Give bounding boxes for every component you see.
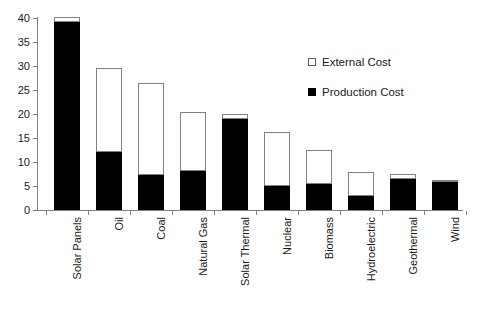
x-axis-label-text: Geothermal <box>408 217 419 321</box>
x-axis-label: Solar Thermal <box>240 97 251 217</box>
x-tick-mark <box>424 211 425 215</box>
x-tick-mark <box>298 211 299 215</box>
x-tick-mark <box>466 211 467 215</box>
black-square-icon <box>308 88 316 96</box>
x-tick-mark <box>382 211 383 215</box>
y-tick-mark <box>33 138 37 139</box>
y-tick-label: 30 <box>0 61 30 72</box>
x-tick-mark <box>46 211 47 215</box>
x-axis-label: Natural Gas <box>198 97 209 217</box>
x-axis-label-text: Hydroelectric <box>366 217 377 321</box>
x-axis-label: Solar Panels <box>72 97 83 217</box>
y-tick-mark <box>33 162 37 163</box>
y-tick-label: 0 <box>0 205 30 216</box>
y-tick-mark <box>33 42 37 43</box>
y-tick-mark <box>33 18 37 19</box>
y-tick-label: 40 <box>0 13 30 24</box>
x-axis-label-text: Solar Panels <box>72 217 83 321</box>
x-axis-label-text: Solar Thermal <box>240 217 251 321</box>
y-tick-mark <box>33 114 37 115</box>
y-tick-label: 25 <box>0 85 30 96</box>
x-axis-label-text: Coal <box>156 217 167 321</box>
y-tick-label: 15 <box>0 133 30 144</box>
x-tick-mark <box>130 211 131 215</box>
stacked-bar-chart: 4035302520151050 Solar PanelsOilCoalNatu… <box>0 0 485 321</box>
x-tick-mark <box>172 211 173 215</box>
x-axis-label: Coal <box>156 97 167 217</box>
x-axis-label: Wind <box>450 97 461 217</box>
x-tick-mark <box>256 211 257 215</box>
x-axis-label: Oil <box>114 97 125 217</box>
legend-label-production-cost: Production Cost <box>322 86 404 98</box>
x-axis-label-text: Wind <box>450 217 461 321</box>
white-square-icon <box>308 58 316 66</box>
y-tick-mark <box>33 186 37 187</box>
x-tick-mark <box>88 211 89 215</box>
x-axis-label-text: Oil <box>114 217 125 321</box>
y-tick-mark <box>33 66 37 67</box>
x-axis-label: Nuclear <box>282 97 293 217</box>
x-axis-label: Geothermal <box>408 97 419 217</box>
y-tick-label: 35 <box>0 37 30 48</box>
x-axis-label-text: Nuclear <box>282 217 293 321</box>
x-tick-mark <box>214 211 215 215</box>
x-axis-label-text: Biomass <box>324 217 335 321</box>
chart-legend: External Cost Production Cost <box>308 56 404 116</box>
legend-item-external-cost[interactable]: External Cost <box>308 56 404 68</box>
legend-item-production-cost[interactable]: Production Cost <box>308 86 404 98</box>
y-tick-label: 5 <box>0 181 30 192</box>
x-axis-label-text: Natural Gas <box>198 217 209 321</box>
y-tick-label: 10 <box>0 157 30 168</box>
x-tick-mark <box>340 211 341 215</box>
legend-label-external-cost: External Cost <box>322 56 391 68</box>
y-tick-mark <box>33 90 37 91</box>
y-tick-label: 20 <box>0 109 30 120</box>
